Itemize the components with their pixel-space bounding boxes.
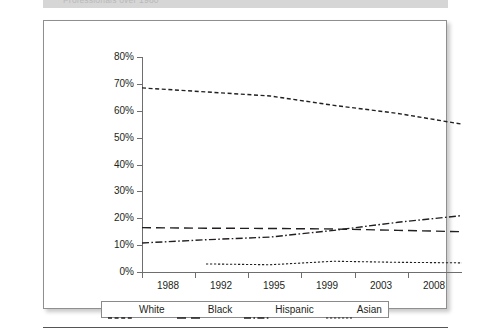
legend-label-hispanic: Hispanic: [275, 304, 313, 315]
legend-swatch-white: [108, 307, 134, 313]
legend-item-asian[interactable]: Asian: [326, 304, 382, 315]
legend-item-hispanic[interactable]: Hispanic: [244, 304, 313, 315]
legend-swatch-asian: [326, 307, 352, 313]
legend-swatch-hispanic: [244, 307, 270, 313]
page-root: Professionals over 1980 80% 70% 60% 50% …: [0, 0, 491, 332]
chart-plot-area: 80% 70% 60% 50% 40% 30% 20% 10% 0% 1988 …: [44, 21, 448, 310]
series-line-asian: [206, 261, 462, 264]
chart-legend: White Black Hispanic Asian: [101, 301, 389, 318]
bottom-divider: [43, 327, 448, 328]
caption-text: Professionals over 1980: [63, 0, 159, 5]
legend-label-black: Black: [208, 304, 232, 315]
legend-item-black[interactable]: Black: [177, 304, 232, 315]
legend-label-white: White: [139, 304, 165, 315]
series-line-white: [142, 88, 462, 124]
series-line-black: [142, 228, 462, 232]
caption-band: Professionals over 1980: [43, 0, 448, 8]
chart-series-layer: [44, 21, 448, 310]
legend-item-white[interactable]: White: [108, 304, 165, 315]
legend-swatch-black: [177, 307, 203, 313]
figure-card: 80% 70% 60% 50% 40% 30% 20% 10% 0% 1988 …: [43, 20, 447, 309]
legend-label-asian: Asian: [357, 304, 382, 315]
